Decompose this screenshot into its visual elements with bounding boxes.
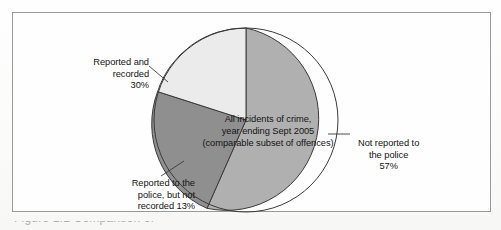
label-not-reported-to-police: Not reported to the police 57%: [358, 138, 419, 173]
label-line: police, but not: [132, 190, 195, 202]
label-line: Reported to the: [132, 178, 195, 190]
label-line: Reported and: [93, 57, 149, 69]
figure-caption-cropped: Figure 1.1 Comparison of: [14, 221, 314, 230]
caption-line: (comparable subset of offences): [184, 138, 352, 150]
label-reported-and-recorded: Reported and recorded 30%: [93, 57, 149, 92]
pie-chart-svg: [13, 13, 492, 213]
label-value: recorded 13%: [132, 201, 195, 213]
chart-center-caption: All incidents of crime, year ending Sept…: [184, 114, 352, 149]
figure-caption-text: Figure 1.1 Comparison of: [14, 221, 314, 225]
caption-line: year ending Sept 2005: [184, 126, 352, 138]
label-line: Not reported to: [358, 138, 419, 150]
page-background: Reported and recorded 30% Not reported t…: [0, 0, 501, 230]
label-line: recorded: [93, 69, 149, 81]
label-value: 30%: [93, 80, 149, 92]
label-value: 57%: [358, 161, 419, 173]
label-line: the police: [358, 150, 419, 162]
pie-chart: Reported and recorded 30% Not reported t…: [13, 13, 490, 211]
caption-line: All incidents of crime,: [184, 114, 352, 126]
label-reported-but-not-recorded: Reported to the police, but not recorded…: [132, 178, 195, 213]
figure-frame: Reported and recorded 30% Not reported t…: [12, 12, 491, 212]
